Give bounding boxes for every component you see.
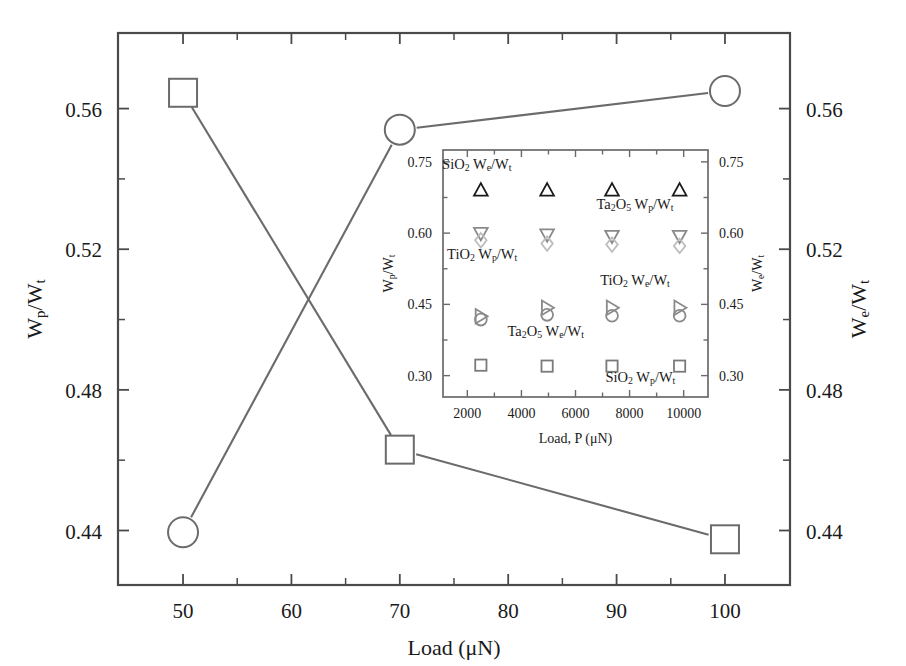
main-marker-circle-70: [385, 115, 415, 145]
x-tick-label-100: 100: [709, 599, 741, 623]
main-connector-1-1: [417, 93, 708, 128]
main-marker-circle-100: [710, 76, 740, 106]
y-axis-left-title-text: Wp/Wt: [22, 279, 48, 339]
inset-series-sio2-wp-wt: [475, 360, 685, 372]
y-axis-left-title-sub1: p: [32, 310, 48, 317]
ta2o5-we-label: Ta2O5 We/Wt: [507, 323, 584, 340]
y-left-tick-label-0.48: 0.48: [65, 379, 102, 403]
inset-y-axis-left-title-w1: W: [381, 278, 396, 292]
inset-x-axis-title: Load, P (μN): [539, 431, 613, 447]
inset-y-right-tick-label-0.3: 0.30: [719, 369, 744, 384]
sio2-wp-label-part-2: W: [633, 369, 650, 385]
inset-y-axis-left-title-w2: /W: [381, 257, 396, 275]
ta2o5-we-label-part-7: t: [581, 329, 584, 340]
main-connector-0-1: [416, 454, 708, 535]
sio2-we-label-part-4: /W: [491, 156, 509, 172]
ta2o5-wp-label: Ta2O5 Wp/Wt: [596, 196, 673, 213]
x-tick-label-50: 50: [173, 599, 194, 623]
scientific-plot: 5060708090100Load (μN)0.440.440.480.480.…: [0, 0, 906, 666]
tio2-wp-label-part-5: t: [515, 252, 518, 263]
inset-marker-sio2-we-wt-4950: [540, 183, 554, 195]
inset-x-tick-label-8000: 8000: [616, 406, 644, 421]
y-axis-left-title-sub2: t: [32, 279, 48, 284]
ta2o5-we-label-part-2: O: [527, 323, 537, 339]
y-axis-left-title-w1: W: [22, 318, 47, 339]
inset-marker-sio2-we-wt-2500: [474, 183, 488, 195]
inset-x-tick-label-2000: 2000: [453, 406, 481, 421]
y-axis-right-title-text: We/Wt: [846, 279, 872, 338]
inset-series-tio2-we-wt: [476, 301, 687, 324]
sio2-wp-label: SiO2 Wp/Wt: [605, 369, 675, 386]
main-connector-1-0: [191, 145, 392, 518]
inset-series-ta2o5-wp-wt: [474, 228, 686, 243]
inset-y-left-tick-label-0.75: 0.75: [408, 155, 433, 170]
y-left-tick-label-0.56: 0.56: [65, 98, 102, 122]
inset-marker-sio2-we-wt-9850: [673, 183, 687, 195]
main-marker-square-100: [711, 525, 739, 553]
inset-y-axis-right-title-w1: W: [750, 278, 765, 292]
inset-marker-sio2-wp-wt-4950: [541, 361, 552, 372]
main-marker-square-50: [169, 79, 197, 107]
ta2o5-we-label-part-0: Ta: [507, 323, 522, 339]
tio2-we-label-part-0: TiO: [600, 272, 623, 288]
y-left-tick-label-0.44: 0.44: [65, 520, 102, 544]
inset-y-left-tick-label-0.3: 0.30: [408, 369, 433, 384]
inset-y-axis-left-title-text: Wp/Wt: [381, 254, 397, 292]
main-connector-0-0: [192, 107, 391, 435]
sio2-we-label-part-5: t: [509, 162, 512, 173]
figure-container: 5060708090100Load (μN)0.440.440.480.480.…: [0, 0, 906, 666]
tio2-we-label-part-5: t: [667, 279, 670, 290]
inset-y-axis-right-title-sub2: t: [756, 255, 766, 258]
ta2o5-wp-label-part-0: Ta: [596, 196, 611, 212]
main-series-group: [168, 76, 740, 553]
ta2o5-wp-label-part-4: W: [631, 196, 648, 212]
y-right-tick-label-0.56: 0.56: [806, 98, 843, 122]
y-axis-right-title-w1: W: [846, 317, 871, 338]
ta2o5-wp-label-part-7: t: [671, 202, 674, 213]
inset-y-axis-left-title: Wp/Wt: [381, 254, 397, 292]
inset-marker-sio2-wp-wt-2500: [475, 360, 486, 371]
main-marker-circle-50: [168, 517, 198, 547]
main-marker-square-70: [386, 436, 414, 464]
inset-series-sio2-we-wt: [474, 183, 686, 195]
tio2-wp-label: TiO2 Wp/Wt: [447, 246, 517, 263]
x-tick-label-60: 60: [281, 599, 302, 623]
inset-marker-sio2-we-wt-7350: [605, 183, 619, 195]
y-axis-right-title-sub2: t: [856, 279, 872, 284]
main-plot-frame: [118, 33, 790, 585]
ta2o5-wp-label-part-2: O: [616, 196, 626, 212]
inset-marker-tio2-wp-wt-9850: [674, 239, 686, 253]
y-axis-left-title-w2: /W: [22, 283, 47, 310]
tio2-wp-label-part-2: W: [475, 246, 492, 262]
tio2-wp-label-part-4: /W: [497, 246, 515, 262]
ta2o5-we-label-part-4: W: [542, 323, 559, 339]
inset-y-axis-right-title-w2: /W: [750, 257, 765, 275]
inset-y-right-tick-label-0.6: 0.60: [719, 226, 744, 241]
sio2-wp-label-part-5: t: [673, 375, 676, 386]
inset-y-left-tick-label-0.45: 0.45: [408, 297, 433, 312]
inset-y-right-tick-label-0.45: 0.45: [719, 297, 744, 312]
tio2-we-label-part-2: W: [628, 272, 645, 288]
y-axis-right-title-w2: /W: [846, 284, 871, 311]
y-axis-left-title: Wp/Wt: [22, 279, 48, 339]
inset-y-axis-left-title-sub2: t: [387, 254, 397, 257]
tio2-we-label-part-4: /W: [649, 272, 667, 288]
x-tick-label-70: 70: [389, 599, 410, 623]
sio2-wp-label-part-4: /W: [655, 369, 673, 385]
inset-x-tick-label-4000: 4000: [507, 406, 535, 421]
y-right-tick-label-0.48: 0.48: [806, 379, 843, 403]
inset-x-tick-label-6000: 6000: [562, 406, 590, 421]
x-axis-title: Load (μN): [407, 635, 500, 660]
inset-y-left-tick-label-0.6: 0.60: [408, 226, 433, 241]
inset-x-tick-label-10000: 10000: [666, 406, 701, 421]
sio2-we-label: SiO2 We/Wt: [442, 156, 512, 173]
y-right-tick-label-0.44: 0.44: [806, 520, 843, 544]
inset-y-axis-right-title-text: We/Wt: [750, 255, 766, 293]
x-tick-label-90: 90: [606, 599, 627, 623]
sio2-we-label-part-0: SiO: [442, 156, 465, 172]
ta2o5-we-label-part-6: /W: [564, 323, 582, 339]
y-left-tick-label-0.52: 0.52: [65, 238, 102, 262]
x-tick-label-80: 80: [498, 599, 519, 623]
inset-marker-ta2o5-wp-wt-9850: [673, 231, 687, 243]
y-axis-right-title: We/Wt: [846, 279, 872, 338]
